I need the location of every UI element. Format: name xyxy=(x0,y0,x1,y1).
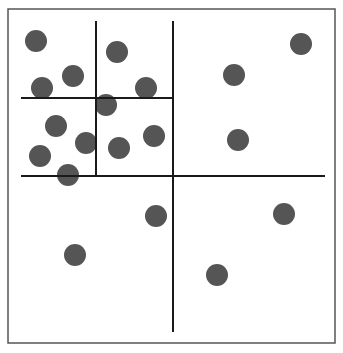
data-point xyxy=(75,132,97,154)
data-point xyxy=(108,137,130,159)
data-point xyxy=(31,77,53,99)
data-point xyxy=(135,77,157,99)
data-point xyxy=(45,115,67,137)
data-point xyxy=(227,129,249,151)
data-point xyxy=(206,264,228,286)
data-point xyxy=(29,145,51,167)
data-point xyxy=(143,125,165,147)
data-point xyxy=(145,205,167,227)
data-point xyxy=(62,65,84,87)
data-point xyxy=(25,30,47,52)
data-point xyxy=(273,203,295,225)
data-point xyxy=(290,33,312,55)
quadtree-diagram xyxy=(0,0,343,353)
data-point xyxy=(106,41,128,63)
data-point xyxy=(64,244,86,266)
data-point xyxy=(223,64,245,86)
